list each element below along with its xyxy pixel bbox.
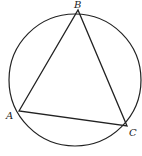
label-c: C <box>129 127 137 138</box>
diagram-canvas: A B C <box>0 0 142 156</box>
label-a: A <box>5 110 13 121</box>
circumcircle <box>9 14 141 146</box>
label-b: B <box>73 0 81 10</box>
